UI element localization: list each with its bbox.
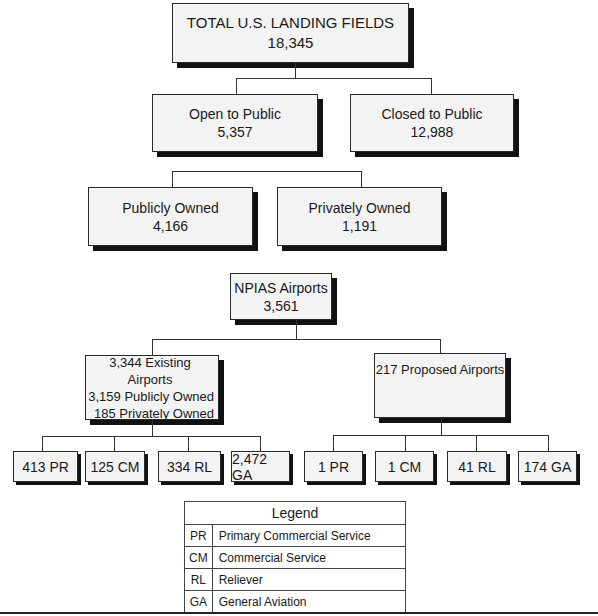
node-value: 5,357 — [217, 123, 252, 141]
node-closed-to-public: Closed to Public 12,988 — [350, 94, 514, 152]
node-open-to-public: Open to Public 5,357 — [152, 94, 318, 152]
connector — [42, 436, 261, 437]
proposed-total: 217 Proposed Airports — [376, 361, 505, 379]
node-label: Open to Public — [189, 105, 281, 123]
connector — [440, 339, 441, 353]
connector — [476, 435, 477, 451]
node-existing-rl: 334 RL — [158, 451, 221, 482]
node-npias-airports: NPIAS Airports 3,561 — [230, 273, 332, 320]
legend-table: Legend PRPrimary Commercial Service CMCo… — [184, 501, 406, 613]
node-proposed-cm: 1 CM — [375, 451, 434, 482]
node-label: Closed to Public — [381, 105, 482, 123]
legend-code: RL — [185, 569, 213, 591]
connector — [361, 171, 362, 187]
connector — [172, 171, 173, 187]
connector — [152, 339, 441, 340]
legend-row: CMCommercial Service — [185, 547, 406, 569]
node-value: 4,166 — [153, 217, 188, 235]
connector — [333, 435, 334, 451]
bottom-divider — [0, 612, 598, 614]
connector — [295, 63, 296, 78]
connector — [548, 435, 549, 451]
legend-code: GA — [185, 591, 213, 613]
node-label: 334 RL — [167, 459, 212, 475]
legend-row: RLReliever — [185, 569, 406, 591]
node-label: TOTAL U.S. LANDING FIELDS — [187, 13, 394, 33]
legend-meaning: Reliever — [212, 569, 405, 591]
legend-title: Legend — [185, 502, 406, 525]
node-label: 125 CM — [90, 459, 139, 475]
node-label: 1 PR — [318, 459, 349, 475]
node-total-landing-fields: TOTAL U.S. LANDING FIELDS 18,345 — [172, 3, 409, 63]
legend-code: PR — [185, 525, 213, 547]
connector — [172, 171, 362, 172]
connector — [236, 78, 432, 79]
node-value: 18,345 — [268, 33, 314, 53]
node-existing-airports: 3,344 Existing Airports 3,159 Publicly O… — [85, 355, 219, 420]
node-label: NPIAS Airports — [234, 279, 327, 297]
node-privately-owned: Privately Owned 1,191 — [277, 187, 442, 246]
legend-meaning: Commercial Service — [212, 547, 405, 569]
existing-private: 185 Privately Owned — [94, 405, 214, 422]
connector — [405, 435, 406, 451]
node-existing-ga: 2,472 GA — [231, 451, 290, 482]
node-value: 3,561 — [263, 297, 298, 315]
node-label: 174 GA — [524, 459, 571, 475]
existing-total: 3,344 Existing Airports — [86, 354, 214, 388]
node-proposed-airports: 217 Proposed Airports — [374, 353, 506, 418]
node-label: 1 CM — [388, 459, 421, 475]
node-label: Publicly Owned — [122, 199, 219, 217]
connector — [152, 420, 153, 436]
node-value: 1,191 — [342, 217, 377, 235]
connector — [42, 436, 43, 451]
node-proposed-ga: 174 GA — [518, 451, 577, 482]
connector — [188, 436, 189, 451]
legend-row: GAGeneral Aviation — [185, 591, 406, 613]
legend-meaning: General Aviation — [212, 591, 405, 613]
connector — [333, 435, 549, 436]
connector — [114, 436, 115, 451]
node-label: 2,472 GA — [232, 451, 289, 483]
legend-row: PRPrimary Commercial Service — [185, 525, 406, 547]
connector — [236, 78, 237, 94]
connector — [296, 320, 297, 339]
node-proposed-pr: 1 PR — [304, 451, 363, 482]
node-proposed-rl: 41 RL — [447, 451, 507, 482]
legend-meaning: Primary Commercial Service — [212, 525, 405, 547]
connector — [260, 436, 261, 451]
connector — [431, 78, 432, 94]
legend-code: CM — [185, 547, 213, 569]
node-label: 41 RL — [458, 459, 495, 475]
connector — [441, 418, 442, 435]
node-publicly-owned: Publicly Owned 4,166 — [88, 187, 253, 246]
node-label: Privately Owned — [309, 199, 411, 217]
node-existing-pr: 413 PR — [13, 451, 78, 482]
node-label: 413 PR — [22, 459, 69, 475]
node-value: 12,988 — [411, 123, 454, 141]
existing-public: 3,159 Publicly Owned — [88, 388, 214, 405]
node-existing-cm: 125 CM — [85, 451, 145, 482]
